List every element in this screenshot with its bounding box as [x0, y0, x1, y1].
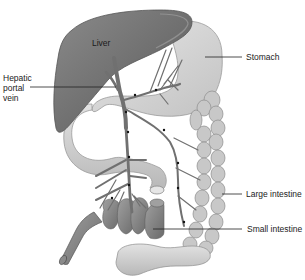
- label-large-intestine: Large intestine: [246, 189, 302, 199]
- label-hepatic-portal-vein-line2: portal: [3, 83, 32, 93]
- label-small-intestine: Small intestine: [247, 224, 302, 234]
- label-hepatic-portal-vein-line3: vein: [3, 93, 32, 103]
- label-liver: Liver: [92, 38, 110, 48]
- label-stomach: Stomach: [246, 52, 280, 62]
- label-hepatic-portal-vein-line1: Hepatic: [3, 73, 32, 83]
- label-hepatic-portal-vein: Hepatic portal vein: [3, 73, 32, 103]
- hepatic-portal-system-illustration: [0, 0, 305, 280]
- inferior-vessel-stub: [58, 212, 102, 266]
- large-intestine: [116, 91, 225, 275]
